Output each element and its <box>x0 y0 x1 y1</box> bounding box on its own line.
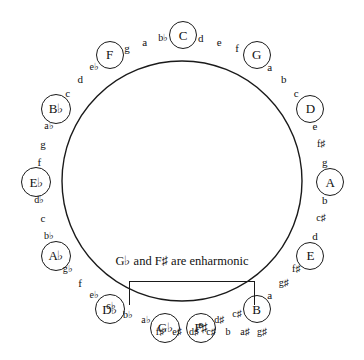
scale-degree: f <box>235 42 239 53</box>
key-node-D[interactable]: D <box>296 95 324 123</box>
scale-degree: d <box>77 74 83 85</box>
scale-degree: a <box>267 61 272 72</box>
scale-degree: g <box>322 157 328 168</box>
enharmonic-annotation: G♭ and F♯ are enharmonic <box>0 255 364 268</box>
bottom-scale-degree: a♯ <box>240 327 249 337</box>
key-node-Eflat[interactable]: E♭ <box>21 167 51 197</box>
scale-degree: d <box>198 33 204 44</box>
scale-degree: f <box>78 277 82 288</box>
scale-degree: b♭ <box>44 231 54 241</box>
scale-degree: b <box>281 74 287 85</box>
bottom-scale-degree: e♯ <box>172 327 181 337</box>
key-label: C <box>179 29 187 42</box>
scale-degree: e <box>313 120 318 131</box>
scale-degree: g <box>124 42 130 53</box>
scale-degree: c♯ <box>232 309 241 319</box>
key-label: D <box>306 102 315 115</box>
scale-degree: a♭ <box>44 121 53 131</box>
scale-degree: d <box>312 231 318 242</box>
scale-degree: c♯ <box>316 213 325 223</box>
scale-degree: a <box>142 36 147 47</box>
enharmonic-bracket <box>129 281 255 305</box>
key-node-A[interactable]: A <box>316 168 344 196</box>
scale-degree: e♭ <box>90 62 99 72</box>
scale-degree: d♭ <box>34 195 44 205</box>
circle-of-fifths-diagram: CGDAEBF♯G♭D♭A♭E♭B♭F defabcef♯gbc♯df♯g♯ac… <box>0 0 364 360</box>
key-label: G <box>252 48 261 61</box>
scale-degree: b♭ <box>158 33 168 43</box>
bottom-scale-degree: b <box>226 327 231 337</box>
key-node-F[interactable]: F <box>96 41 124 69</box>
circle-outline <box>0 0 364 360</box>
scale-degree: c <box>40 213 45 224</box>
scale-degree: c♭ <box>106 301 115 311</box>
scale-degree: e♭ <box>90 290 99 300</box>
scale-degree: g <box>40 138 46 149</box>
scale-degree: b <box>322 194 328 205</box>
scale-degree: a♭ <box>141 315 150 325</box>
bottom-scale-degree: g♯ <box>257 327 267 337</box>
scale-degree: e <box>198 318 203 329</box>
bottom-scale-degree: d♯ <box>189 327 199 337</box>
key-label: F <box>106 48 113 61</box>
scale-degree: g♯ <box>279 278 289 288</box>
bottom-scale-degree: c♯ <box>206 327 215 337</box>
bottom-scale-degree: f♯ <box>156 327 164 337</box>
key-label: E♭ <box>29 176 42 189</box>
scale-degree: c <box>65 88 70 99</box>
scale-degree: c <box>294 88 299 99</box>
scale-degree: d♯ <box>214 315 224 325</box>
scale-degree: f <box>37 157 41 168</box>
key-label: A <box>326 176 335 189</box>
key-node-C[interactable]: C <box>169 21 197 49</box>
scale-degree: b♭ <box>123 310 133 320</box>
key-label: B♭ <box>49 102 63 115</box>
scale-degree: e <box>217 36 222 47</box>
scale-degree: f♯ <box>317 139 325 149</box>
scale-degree: a <box>267 290 272 301</box>
